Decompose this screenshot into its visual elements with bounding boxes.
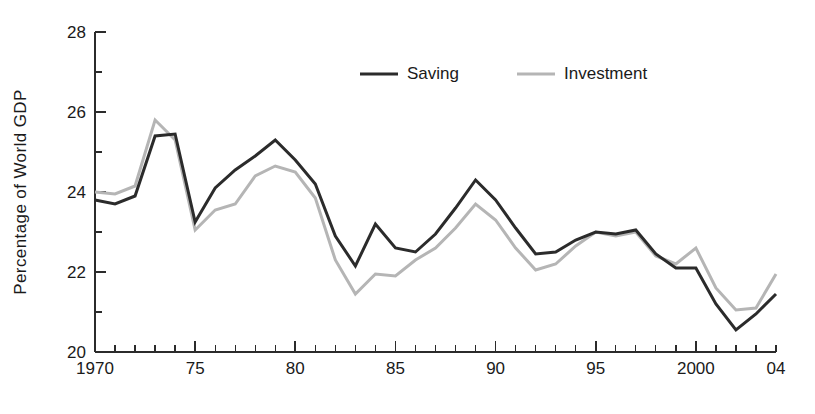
legend-label-saving: Saving	[407, 64, 459, 83]
x-tick-label: 2000	[677, 359, 715, 378]
x-tick-label: 85	[386, 359, 405, 378]
x-tick-label: 04	[767, 359, 786, 378]
y-tick-label: 22	[67, 263, 86, 282]
saving-investment-line-chart: Percentage of World GDP 2022242628 19707…	[0, 0, 815, 414]
x-tick-label: 1970	[76, 359, 114, 378]
x-tick-label: 90	[486, 359, 505, 378]
y-axis-title: Percentage of World GDP	[11, 89, 30, 294]
y-tick-label: 24	[67, 183, 86, 202]
x-tick-label: 95	[586, 359, 605, 378]
x-tick-label: 80	[286, 359, 305, 378]
y-axis-title-text: Percentage of World GDP	[11, 89, 30, 294]
y-tick-label: 26	[67, 103, 86, 122]
legend-label-investment: Investment	[564, 64, 647, 83]
y-tick-label: 28	[67, 23, 86, 42]
x-tick-label: 75	[186, 359, 205, 378]
